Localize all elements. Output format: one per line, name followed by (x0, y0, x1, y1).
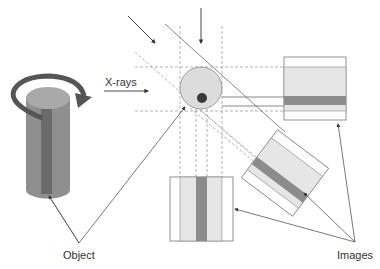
phantom-cross-section (180, 67, 222, 109)
image-horizontal-projection (284, 57, 346, 120)
image-diagonal-projection (241, 130, 328, 216)
image-vertical-projection (170, 177, 233, 241)
xrays-label: X-rays (105, 76, 137, 88)
xray-arrow-diagonal-icon (128, 16, 155, 43)
images-label: Images (337, 249, 374, 261)
images-callout-right (338, 124, 355, 242)
object-cylinder (13, 76, 92, 199)
object-label: Object (63, 249, 95, 261)
ct-projection-diagram: X-rays Object Images (0, 0, 380, 269)
images-callout-bottom (235, 209, 355, 242)
